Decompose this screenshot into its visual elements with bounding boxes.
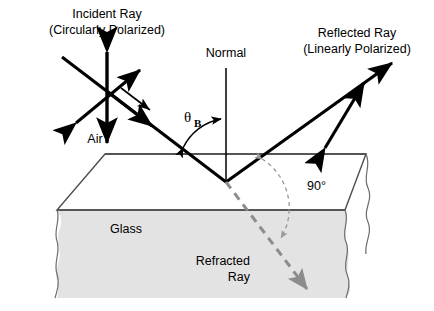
incident-ray-title-line1: Incident Ray — [72, 7, 142, 21]
glass-right-break-edge-upper — [366, 154, 370, 254]
right-angle-label: 90° — [307, 179, 326, 193]
reflected-ray-title-line1: Reflected Ray — [318, 26, 397, 40]
theta-symbol: θ — [184, 109, 191, 125]
diagram-canvas: Incident Ray (Circularly Polarized) Norm… — [0, 0, 434, 311]
glass-label: Glass — [110, 222, 142, 236]
polarization-brewster-angle-diagram: Incident Ray (Circularly Polarized) Norm… — [0, 0, 434, 311]
glass-left-break-edge — [55, 210, 58, 298]
incident-ray-direction-arrow — [108, 92, 152, 126]
air-label: Air — [87, 132, 102, 146]
normal-label: Normal — [206, 46, 246, 60]
refracted-ray-label-line2: Ray — [228, 270, 251, 284]
theta-subscript-b: B — [194, 117, 202, 129]
incident-ray-title-line2: (Circularly Polarized) — [49, 23, 165, 37]
reflected-ray-title-line2: (Linearly Polarized) — [303, 42, 411, 56]
reflected-polarization-double-arrow — [325, 83, 364, 148]
refracted-ray-label-line1: Refracted — [196, 254, 250, 268]
